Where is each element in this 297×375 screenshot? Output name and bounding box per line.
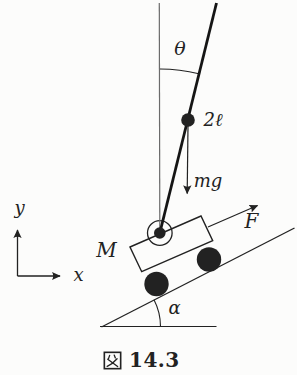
- figure-caption: 14.3: [103, 350, 180, 370]
- gravity-force-label: mg: [194, 172, 223, 190]
- rear-wheel: [144, 272, 168, 296]
- alpha-arc: [154, 300, 161, 327]
- applied-force-label: F: [245, 211, 259, 231]
- figure-canvas: θ 2ℓ mg F M α y x 14.3: [0, 0, 297, 375]
- x-axis-label: x: [73, 266, 83, 284]
- pendulum-cart-diagram: [0, 0, 297, 375]
- cart-mass-label: M: [96, 240, 116, 260]
- incline-angle-label: α: [168, 299, 180, 317]
- pivot-dot: [154, 227, 166, 239]
- theta-label: θ: [174, 39, 185, 58]
- theta-arc: [160, 69, 199, 74]
- pendulum-mass-dot: [181, 113, 195, 127]
- figure-caption-number: 14.3: [129, 350, 180, 370]
- front-wheel: [197, 247, 221, 271]
- gravity-arrow: [187, 126, 188, 194]
- zu-kanji-icon: [103, 351, 122, 370]
- coordinate-axes: [18, 230, 61, 276]
- y-axis-label: y: [14, 199, 24, 217]
- vertical-reference-line: [159, 3, 160, 232]
- rod-length-label: 2ℓ: [204, 111, 223, 129]
